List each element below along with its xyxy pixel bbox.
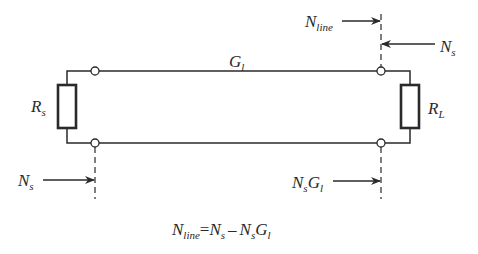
noise-diagram: Gl Rs RL Ns Nline Ns NsGl Nline=Ns–NsGl bbox=[0, 0, 478, 254]
line-gain-label: Gl bbox=[229, 52, 244, 73]
noise-equation: Nline=Ns–NsGl bbox=[171, 220, 271, 241]
terminal-bottom-right bbox=[377, 139, 385, 147]
terminal-top-left bbox=[91, 67, 99, 75]
line-noise-label: Nline bbox=[304, 12, 333, 33]
input-noise-label: Ns bbox=[17, 171, 34, 192]
source-resistor-label: Rs bbox=[30, 97, 46, 118]
bottom-conductor bbox=[67, 128, 410, 143]
source-resistor bbox=[58, 85, 76, 128]
terminal-top-right bbox=[377, 67, 385, 75]
transmitted-noise-label: NsGl bbox=[291, 173, 323, 194]
top-conductor bbox=[67, 71, 410, 85]
terminal-bottom-left bbox=[91, 139, 99, 147]
load-resistor-label: RL bbox=[427, 99, 445, 120]
load-resistor bbox=[401, 85, 419, 128]
output-source-noise-label: Ns bbox=[439, 37, 456, 58]
